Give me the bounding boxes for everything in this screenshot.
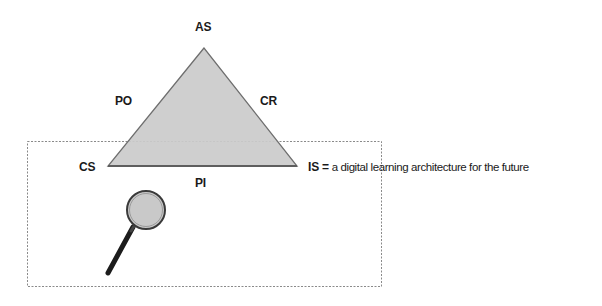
edge-label-right: CR	[260, 95, 277, 107]
definition-text: a digital learning architecture for the …	[332, 161, 529, 173]
diagram-canvas: AS PO CR CS PI IS = a digital learning a…	[0, 0, 602, 306]
diagram-graphics	[0, 0, 602, 306]
vertex-label-bottom-left: CS	[79, 161, 95, 173]
vertex-label-top: AS	[195, 21, 211, 33]
magnifying-glass-icon	[108, 191, 165, 273]
edge-label-bottom: PI	[195, 177, 206, 189]
definition: IS = a digital learning architecture for…	[308, 161, 529, 174]
definition-term: IS =	[308, 160, 329, 174]
edge-label-left: PO	[115, 95, 132, 107]
